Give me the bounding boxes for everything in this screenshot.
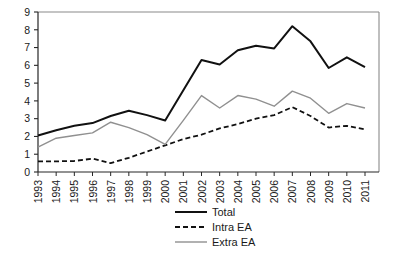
y-tick-label-3: 3 — [24, 112, 30, 124]
chart-figure: 0123456789 19931994199519961997199819992… — [0, 0, 399, 259]
y-tick-label-5: 5 — [24, 77, 30, 89]
y-tick-label-9: 9 — [24, 6, 30, 18]
x-tick-label-2007: 2007 — [286, 180, 298, 204]
x-tick-label-2001: 2001 — [177, 180, 189, 204]
x-tick-label-2000: 2000 — [159, 180, 171, 204]
x-tick-label-2005: 2005 — [250, 180, 262, 204]
x-tick-label-1998: 1998 — [123, 180, 135, 204]
x-tick-label-1997: 1997 — [105, 180, 117, 204]
x-tick-label-2010: 2010 — [341, 180, 353, 204]
y-tick-label-6: 6 — [24, 59, 30, 71]
x-tick-label-1995: 1995 — [68, 180, 80, 204]
x-tick-label-2003: 2003 — [214, 180, 226, 204]
x-tick-label-2004: 2004 — [232, 180, 244, 204]
y-tick-label-7: 7 — [24, 41, 30, 53]
x-tick-label-2006: 2006 — [268, 180, 280, 204]
y-tick-label-1: 1 — [24, 148, 30, 160]
y-tick-label-4: 4 — [24, 95, 30, 107]
y-tick-label-8: 8 — [24, 24, 30, 36]
legend-label-intra-ea: Intra EA — [212, 221, 252, 233]
x-tick-label-1999: 1999 — [141, 180, 153, 204]
legend-label-total: Total — [212, 206, 235, 218]
legend-label-extra-ea: Extra EA — [212, 236, 256, 248]
x-tick-label-1996: 1996 — [87, 180, 99, 204]
line-chart: 0123456789 19931994199519961997199819992… — [0, 0, 399, 259]
x-tick-label-2009: 2009 — [323, 180, 335, 204]
x-tick-label-2002: 2002 — [196, 180, 208, 204]
y-tick-label-0: 0 — [24, 166, 30, 178]
y-tick-label-2: 2 — [24, 130, 30, 142]
x-tick-label-1994: 1994 — [50, 180, 62, 204]
x-tick-label-2011: 2011 — [359, 180, 371, 203]
x-tick-label-1993: 1993 — [32, 180, 44, 204]
x-tick-label-2008: 2008 — [305, 180, 317, 204]
